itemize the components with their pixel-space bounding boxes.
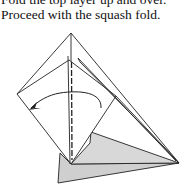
origami-diagram — [0, 0, 184, 195]
